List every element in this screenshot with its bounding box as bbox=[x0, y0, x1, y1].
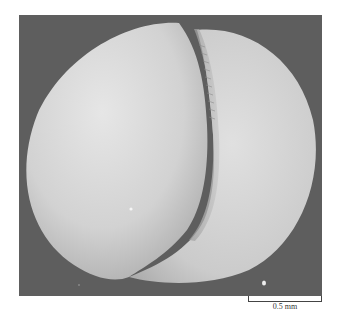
micrograph-frame bbox=[19, 15, 322, 296]
scale-bar-label: 0.5 mm bbox=[248, 302, 322, 311]
specimen-image bbox=[19, 15, 322, 296]
